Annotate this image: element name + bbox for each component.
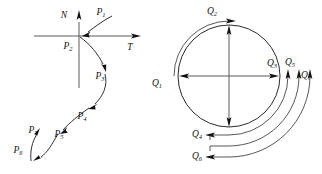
curve-segment-p7 xyxy=(31,134,37,161)
point-label-p1: P1 xyxy=(95,7,105,18)
point-label-p7: P7 xyxy=(27,125,38,136)
normal-axis-arrowhead xyxy=(77,10,82,20)
arc-q5 xyxy=(229,76,299,146)
curve-arrowhead-p4 xyxy=(88,104,98,110)
figure-canvas: N T P1 P2 P3 P4 P5 P6 P7 xyxy=(0,0,322,174)
point-label-p4: P4 xyxy=(76,111,87,122)
arc-q2 xyxy=(174,21,229,76)
flow-label-q4: Q4 xyxy=(192,129,203,140)
flow-label-q1: Q1 xyxy=(152,78,162,89)
figure-root: N T P1 P2 P3 P4 P5 P6 P7 xyxy=(0,0,322,174)
flow-label-q6: Q6 xyxy=(192,151,203,162)
point-label-p5: P5 xyxy=(53,129,64,140)
curve-segment-p3-upper xyxy=(80,37,103,64)
flow-label-q2: Q2 xyxy=(207,6,218,17)
point-label-p2: P2 xyxy=(62,41,73,52)
tangent-axis-label: T xyxy=(127,42,133,52)
flow-label-q3: Q3 xyxy=(267,58,278,69)
left-diagram-group: N T P1 P2 P3 P4 P5 P6 P7 xyxy=(12,7,141,161)
right-diagram-group: Q1 Q2 Q3 Q4 Q5 Q6 Q7 xyxy=(152,6,312,162)
point-label-p6: P6 xyxy=(12,145,23,156)
flow-label-q5: Q5 xyxy=(285,57,296,68)
curve-arrowhead-p1 xyxy=(82,31,91,37)
curve-segment-p1 xyxy=(88,16,112,32)
point-label-p3: P3 xyxy=(94,71,105,82)
normal-axis-label: N xyxy=(60,10,68,20)
